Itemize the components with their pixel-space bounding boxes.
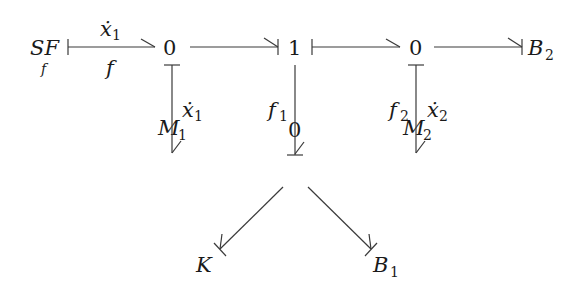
svg-text:ẋ: ẋ: [182, 98, 194, 122]
svg-text:2: 2: [400, 108, 409, 124]
svg-text:ẋ: ẋ: [427, 98, 439, 122]
b1-subscript: 1: [390, 264, 399, 280]
junction-1: 1: [288, 36, 301, 60]
half-arrowhead: [386, 39, 400, 47]
bond-graph-diagram: SF f 0 1 0 B 2 M 1 0 M 2 K B 1 ẋ 1 f: [0, 0, 580, 288]
junction-0-right: 0: [409, 36, 422, 60]
b1-label: B: [372, 253, 388, 277]
svg-text:1: 1: [279, 108, 288, 124]
svg-text:f: f: [387, 98, 400, 122]
svg-text:f: f: [266, 98, 279, 122]
m1-subscript: 1: [178, 127, 187, 143]
half-arrowhead: [141, 39, 155, 47]
bond-1-to-0right: [312, 39, 400, 55]
half-arrowhead: [416, 141, 425, 153]
junction-0-left: 0: [163, 36, 176, 60]
bond-label-f1: f 1: [266, 98, 288, 124]
sf-subscript: f: [40, 61, 49, 77]
b2-label: B: [527, 36, 543, 60]
svg-text:ẋ: ẋ: [100, 17, 112, 41]
bond-label-x2dot: ẋ 2: [427, 98, 448, 124]
bond-label-sf-top: ẋ 1: [100, 17, 121, 43]
m1-label: M: [157, 116, 180, 140]
bond-0left-to-1: [190, 38, 278, 55]
sf-label: SF: [30, 36, 60, 60]
half-arrowhead: [508, 38, 522, 47]
svg-text:1: 1: [194, 108, 203, 124]
node-k: K: [195, 253, 213, 277]
m2-subscript: 2: [423, 127, 432, 143]
half-arrowhead: [295, 142, 304, 154]
node-b1: B 1: [372, 253, 399, 280]
b2-subscript: 2: [545, 47, 554, 63]
svg-text:2: 2: [439, 108, 448, 124]
bond-label-sf-bottom: f: [104, 56, 117, 80]
bond-0right-to-b2: [434, 38, 522, 55]
half-arrowhead: [264, 38, 278, 47]
svg-text:1: 1: [112, 27, 121, 43]
node-sf: SF f: [30, 36, 60, 77]
bond-0bottom-to-k: [214, 187, 283, 256]
half-arrowhead: [172, 141, 181, 153]
bond-0bottom-to-b1: [308, 187, 377, 256]
bond-label-m1: ẋ 1: [182, 98, 203, 124]
node-b2: B 2: [527, 36, 554, 63]
bond-label-f2: f 2: [387, 98, 409, 124]
